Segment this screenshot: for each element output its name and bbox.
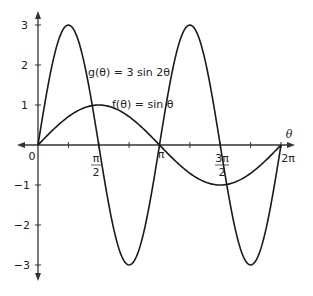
origin-label: 0 — [29, 150, 36, 163]
axes — [20, 14, 292, 278]
x-arrow-right-icon — [287, 142, 295, 148]
y-tick-3: 3 — [21, 19, 28, 32]
y-arrow-up-icon — [35, 11, 41, 19]
chart: 3 2 1 −1 −2 −3 0 π 2 π 3π 2 2π θ g(θ) = … — [0, 0, 313, 296]
x-tick-2pi: 2π — [281, 152, 295, 165]
x-tick-pi2-den: 2 — [93, 166, 100, 179]
y-tick-m2: −2 — [14, 219, 30, 232]
g-curve-label: g(θ) = 3 sin 2θ — [88, 66, 170, 79]
y-tick-m1: −1 — [14, 179, 30, 192]
x-axis-label-theta: θ — [286, 128, 293, 141]
axis-arrows — [17, 11, 295, 281]
x-tick-pi: π — [158, 148, 165, 161]
x-tick-3pi2-den: 2 — [219, 166, 226, 179]
y-tick-m3: −3 — [14, 259, 30, 272]
y-tick-1: 1 — [21, 99, 28, 112]
f-curve-label: f(θ) = sin θ — [112, 98, 174, 111]
x-tick-3pi2-num: 3π — [215, 152, 229, 165]
x-arrow-left-icon — [17, 142, 25, 148]
y-tick-2: 2 — [21, 59, 28, 72]
x-tick-pi2-num: π — [93, 152, 100, 165]
y-arrow-down-icon — [35, 273, 41, 281]
